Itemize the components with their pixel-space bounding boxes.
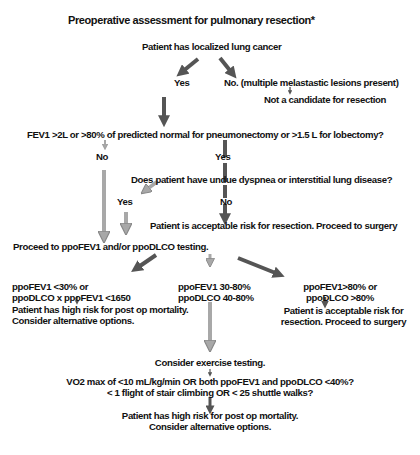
node-not-candidate: Not a candidate for resection (264, 94, 386, 105)
node-exercise-testing: Consider exercise testing. (0, 357, 420, 368)
arrow-start-yes (182, 59, 198, 72)
node-acceptable-1: Patient is acceptable risk for resection… (150, 220, 397, 231)
node-high-criteria: ppoFEV1>80% or ppoDLCO >80% (290, 281, 390, 303)
label-yes-1: Yes (174, 77, 190, 88)
label-no-1: No. (multiple melastastic lesions presen… (224, 77, 399, 88)
node-start: Patient has localized lung cancer (142, 41, 281, 52)
label-no-3: No (220, 196, 232, 207)
diagram-title: Preoperative assessment for pulmonary re… (68, 15, 315, 26)
node-dyspnea-question: Does patient have undue dyspnea or inter… (131, 174, 392, 185)
arrow-ppo-low (137, 255, 156, 268)
label-yes-3: Yes (117, 196, 133, 207)
node-vo2-question: VO2 max of <10 mL/kg/min OR both ppoFEV1… (0, 376, 420, 398)
node-low-criteria: ppoFEV1 <30% or ppoDLCO x ppoFEV1 <1650 (12, 281, 131, 303)
label-no-2: No (96, 151, 108, 162)
node-high-risk-2: Patient has high risk for post op mortal… (0, 410, 420, 432)
node-ppo-testing: Proceed to ppoFEV1 and/or ppoDLCO testin… (13, 241, 208, 252)
arrow-ppo-high (238, 258, 278, 274)
label-yes-2: Yes (215, 151, 231, 162)
node-high-risk-1: Patient has high risk for post op mortal… (12, 304, 188, 326)
node-fev1-question: FEV1 >2L or >80% of predicted normal for… (27, 129, 384, 140)
node-mid-criteria: ppoFEV1 30-80% ppoDLCO 40-80% (178, 281, 254, 303)
node-acceptable-2: Patient is acceptable risk for resection… (276, 305, 411, 327)
arrow-start-no (220, 58, 232, 73)
